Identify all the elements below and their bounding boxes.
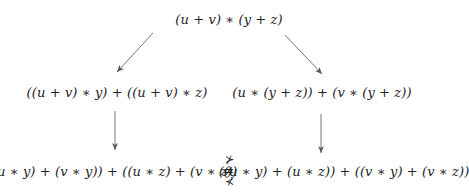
root-expression: (u + v) ∗ (y + z) xyxy=(175,12,282,28)
left-result-expression: ((u ∗ y) + (v ∗ y)) + ((u ∗ z) + (v ∗ z)… xyxy=(0,164,237,180)
arrow-root-to-left xyxy=(117,33,153,72)
arrow-root-to-right xyxy=(285,35,322,74)
comparison-relation: ⊁ ≠ ⊀ xyxy=(224,154,235,187)
not-precedes-symbol: ⊀ xyxy=(224,176,235,187)
right-result-expression: ((u ∗ y) + (u ∗ z)) + ((v ∗ y) + (v ∗ z)… xyxy=(219,164,469,180)
left-step-expression: ((u + v) ∗ y) + ((u + v) ∗ z) xyxy=(27,85,208,101)
right-step-expression: (u ∗ (y + z)) + (v ∗ (y + z)) xyxy=(232,85,411,101)
